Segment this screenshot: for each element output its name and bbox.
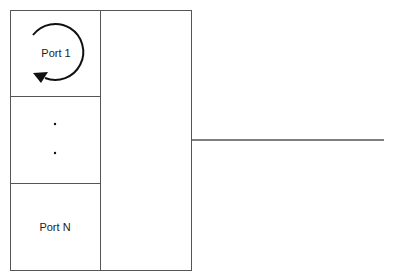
ellipsis-dot-1 <box>54 123 56 125</box>
diagram-canvas <box>0 0 397 279</box>
port-n-label: Port N <box>39 221 70 233</box>
ellipsis-dot-2 <box>54 152 56 154</box>
port-1-label: Port 1 <box>41 47 70 59</box>
